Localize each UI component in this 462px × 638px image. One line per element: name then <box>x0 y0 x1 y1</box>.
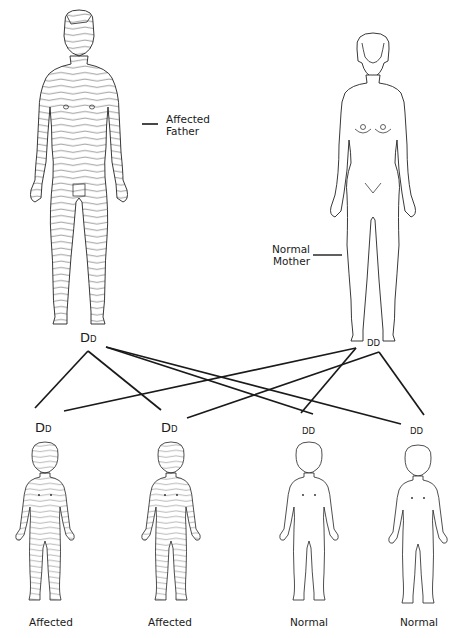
child-4-figure <box>389 445 447 603</box>
father-label: Affected Father <box>166 113 210 137</box>
child-1-genotype: DD <box>35 420 52 435</box>
mother-label: Normal Mother <box>258 243 310 267</box>
child-4-genotype: DD <box>410 423 423 437</box>
mother-genotype: DD <box>367 335 380 349</box>
child-4-label: Normal <box>379 616 459 628</box>
child-2-label: Affected <box>130 616 210 628</box>
line-father-to-child2 <box>88 351 161 410</box>
father-figure <box>31 10 128 324</box>
father-genotype: DD <box>80 330 97 345</box>
child-3-label: Normal <box>269 616 349 628</box>
pedigree-diagram <box>0 0 462 638</box>
line-mother-to-child2 <box>187 352 379 418</box>
child-1-label: Affected <box>11 616 91 628</box>
mother-figure <box>331 33 416 341</box>
child-3-figure <box>280 442 338 600</box>
line-father-to-child4 <box>106 347 401 424</box>
child-1-figure <box>16 442 74 600</box>
inheritance-lines <box>35 347 424 424</box>
line-father-to-child3 <box>106 347 313 414</box>
child-3-genotype: DD <box>302 423 315 437</box>
child-2-figure <box>142 442 200 600</box>
line-father-to-child1 <box>35 351 88 408</box>
child-2-genotype: DD <box>161 420 178 435</box>
line-mother-to-child4 <box>379 352 424 415</box>
